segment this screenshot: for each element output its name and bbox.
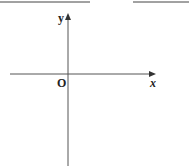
y-axis-label: y bbox=[58, 11, 64, 25]
x-axis-label: x bbox=[149, 76, 156, 90]
y-axis-arrow-icon bbox=[65, 13, 71, 20]
coordinate-plane: y x O bbox=[0, 0, 189, 167]
origin-label: O bbox=[57, 76, 66, 90]
